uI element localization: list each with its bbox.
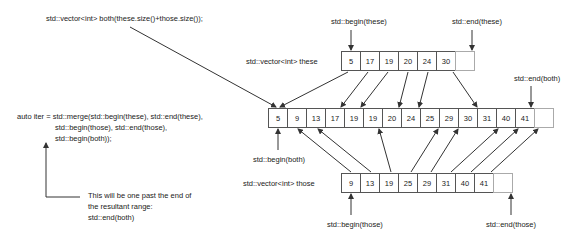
those-cell: 19 — [379, 173, 399, 193]
both-end-cell — [534, 108, 554, 128]
these-cell: 30 — [436, 51, 456, 71]
these-cell: 24 — [417, 51, 437, 71]
both-vector: 5 9 13 17 19 19 20 24 25 29 30 31 40 41 — [268, 108, 554, 128]
note-arrow — [46, 143, 80, 197]
these-vector: 5 17 19 20 24 30 — [341, 51, 475, 71]
these-end-cell — [455, 51, 475, 71]
both-cell: 20 — [382, 108, 402, 128]
both-cell: 19 — [363, 108, 383, 128]
both-begin-label: std::begin(both) — [253, 155, 305, 164]
those-cell: 9 — [341, 173, 361, 193]
both-cell: 29 — [439, 108, 459, 128]
both-declaration: std::vector<int> both(these.size()+those… — [46, 14, 203, 23]
both-cell: 24 — [401, 108, 421, 128]
both-cell: 25 — [420, 108, 440, 128]
merge-call-line-2: std::begin(those), std::end(those), — [55, 123, 167, 132]
those-end-cell — [493, 173, 513, 193]
note-line-2: the resultant range: — [88, 202, 153, 211]
note-line-3: std::end(both) — [88, 213, 134, 222]
those-cell: 13 — [360, 173, 380, 193]
those-cell: 25 — [398, 173, 418, 193]
both-cell: 5 — [268, 108, 288, 128]
both-cell: 30 — [458, 108, 478, 128]
note-line-1: This will be one past the end of — [88, 191, 191, 200]
those-cell: 41 — [474, 173, 494, 193]
these-cell: 17 — [360, 51, 380, 71]
both-cell: 40 — [496, 108, 516, 128]
both-cell: 9 — [287, 108, 307, 128]
both-cell: 17 — [325, 108, 345, 128]
merge-call-line-3: std::begin(both)); — [55, 134, 112, 143]
those-vector: 9 13 19 25 29 31 40 41 — [341, 173, 513, 193]
these-label: std::vector<int> these — [246, 57, 318, 66]
those-cell: 31 — [436, 173, 456, 193]
both-cell: 13 — [306, 108, 326, 128]
those-begin-label: std::begin(those) — [327, 220, 383, 229]
those-cell: 29 — [417, 173, 437, 193]
those-end-label: std::end(those) — [486, 220, 536, 229]
both-cell: 19 — [344, 108, 364, 128]
these-cell: 5 — [341, 51, 361, 71]
both-end-label: std::end(both) — [514, 74, 560, 83]
both-cell: 41 — [515, 108, 535, 128]
these-cell: 19 — [379, 51, 399, 71]
these-end-label: std::end(these) — [452, 17, 502, 26]
these-begin-label: std::begin(these) — [331, 17, 387, 26]
those-label: std::vector<int> those — [243, 179, 315, 188]
both-cell: 31 — [477, 108, 497, 128]
declaration-arrow — [130, 27, 276, 107]
these-cell: 20 — [398, 51, 418, 71]
merge-call-line-1: auto iter = std::merge(std::begin(these)… — [17, 112, 203, 121]
those-cell: 40 — [455, 173, 475, 193]
